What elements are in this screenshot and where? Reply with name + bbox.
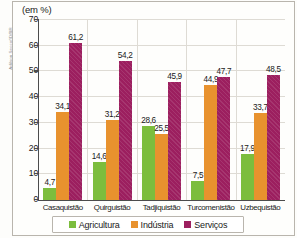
bar-value-label: 4,7: [44, 178, 54, 187]
bar-group: 17,933,748,5: [236, 20, 285, 200]
x-axis-category-label: Tadjiquistão: [137, 203, 186, 212]
bar-group: 7,544,947,7: [186, 20, 235, 200]
x-axis-labels: CasaquistãoQuirguistãoTadjiquistãoTurcom…: [38, 203, 285, 212]
legend-swatch-icon: [69, 221, 76, 228]
x-axis-category-label: Quirguistão: [87, 203, 136, 212]
bar-value-label: 61,2: [68, 33, 83, 42]
bar-slot: 14,6: [93, 20, 106, 200]
bar[interactable]: 34,1: [56, 112, 69, 200]
bar-slot: 31,2: [106, 20, 119, 200]
bar-value-label: 48,5: [266, 65, 281, 74]
legend-label: Agricultura: [79, 220, 120, 230]
legend-swatch-icon: [184, 221, 191, 228]
bar-value-label: 34,1: [55, 102, 70, 111]
bar-value-label: 47,7: [217, 67, 232, 76]
legend-item[interactable]: Agricultura: [69, 220, 120, 230]
bar[interactable]: 28,6: [142, 126, 155, 200]
bar-slot: 47,7: [217, 20, 230, 200]
legend-label: Serviços: [194, 220, 227, 230]
x-axis-category-label: Casaquistão: [38, 203, 87, 212]
bar-slot: 28,6: [142, 20, 155, 200]
bar-slot: 4,7: [43, 20, 56, 200]
chart-figure: Adilson Secco/ID/BR (em %) 0102030405060…: [0, 0, 297, 238]
bar-value-label: 14,6: [92, 152, 107, 161]
bar-value-label: 31,2: [105, 110, 120, 119]
bar-slot: 61,2: [69, 20, 82, 200]
bar-value-label: 17,9: [240, 144, 255, 153]
bar-group: 14,631,254,2: [87, 20, 136, 200]
bar[interactable]: 44,9: [204, 85, 217, 200]
bar-slot: 44,9: [204, 20, 217, 200]
bar-value-label: 33,7: [253, 103, 268, 112]
bar-group: 28,625,545,9: [137, 20, 186, 200]
bar[interactable]: 7,5: [191, 181, 204, 200]
legend-item[interactable]: Serviços: [184, 220, 227, 230]
bar[interactable]: 31,2: [106, 120, 119, 200]
bar[interactable]: 33,7: [254, 113, 267, 200]
bar-slot: 34,1: [56, 20, 69, 200]
bar-slot: 25,5: [155, 20, 168, 200]
legend-swatch-icon: [131, 221, 138, 228]
bar[interactable]: 25,5: [155, 134, 168, 200]
bar[interactable]: 61,2: [69, 43, 82, 200]
x-axis-category-label: Uzbequistão: [236, 203, 285, 212]
bar[interactable]: 47,7: [217, 77, 230, 200]
bar-value-label: 54,2: [118, 51, 133, 60]
bar-slot: 7,5: [191, 20, 204, 200]
bar-value-label: 45,9: [167, 72, 182, 81]
x-axis-category-label: Turcomenistão: [186, 203, 235, 212]
bar-slot: 54,2: [119, 20, 132, 200]
bar-slot: 33,7: [254, 20, 267, 200]
bar-slot: 17,9: [241, 20, 254, 200]
bar[interactable]: 45,9: [168, 82, 181, 200]
legend-item[interactable]: Indústria: [131, 220, 174, 230]
y-axis-ticks: 010203040506070: [0, 19, 38, 201]
bar[interactable]: 14,6: [93, 162, 106, 200]
bar-value-label: 7,5: [193, 171, 203, 180]
bar[interactable]: 4,7: [43, 188, 56, 200]
bar-slot: 48,5: [267, 20, 280, 200]
legend-label: Indústria: [141, 220, 174, 230]
bar-group: 4,734,161,2: [38, 20, 87, 200]
bar[interactable]: 48,5: [267, 75, 280, 200]
x-axis-line: [38, 200, 285, 201]
bar[interactable]: 54,2: [119, 61, 132, 200]
bar[interactable]: 17,9: [241, 154, 254, 200]
bar-value-label: 25,5: [154, 124, 169, 133]
bar-slot: 45,9: [168, 20, 181, 200]
chart-legend: AgriculturaIndústriaServiços: [52, 216, 244, 233]
bar-groups: 4,734,161,214,631,254,228,625,545,97,544…: [38, 20, 285, 200]
